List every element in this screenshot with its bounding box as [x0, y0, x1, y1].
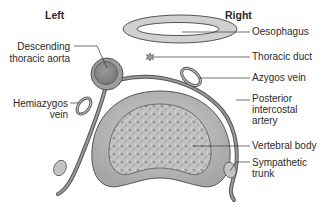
- hemiazygos-vein-shape: [74, 95, 93, 116]
- right-side-label: Right: [225, 9, 252, 21]
- label-thoracic-duct: Thoracic duct: [252, 51, 312, 62]
- label-descending-aorta-line1: Descending: [0, 41, 70, 52]
- oesophagus-shape: [123, 15, 237, 43]
- label-sympathetic-trunk-line2: trunk: [252, 168, 274, 179]
- label-posterior-intercostal-artery-line3: artery: [252, 115, 278, 126]
- label-sympathetic-trunk-line1: Sympathetic: [252, 157, 307, 168]
- thoracic-duct-shape: [146, 53, 153, 61]
- label-vertebral-body: Vertebral body: [252, 140, 317, 151]
- label-hemiazygos-vein-line2: vein: [0, 109, 68, 120]
- vertebral-body-shape: [92, 91, 230, 187]
- label-descending-aorta-line2: thoracic aorta: [0, 53, 70, 64]
- label-azygos-vein: Azygos vein: [252, 72, 306, 83]
- left-sympathetic-trunk-shape: [51, 158, 69, 178]
- label-posterior-intercostal-artery-line1: Posterior: [252, 93, 292, 104]
- label-hemiazygos-vein-line1: Hemiazygos: [0, 98, 68, 109]
- label-posterior-intercostal-artery-line2: intercostal: [252, 104, 298, 115]
- descending-aorta-shape: [91, 58, 123, 90]
- left-side-label: Left: [45, 9, 64, 21]
- label-oesophagus: Oesophagus: [252, 26, 309, 37]
